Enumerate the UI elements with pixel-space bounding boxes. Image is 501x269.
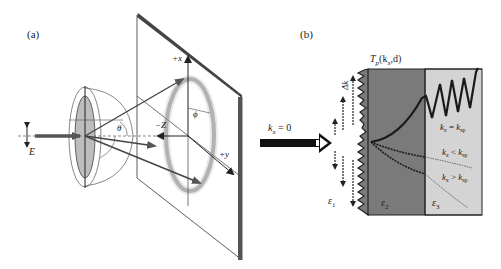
phi-label: ϕ <box>193 109 198 119</box>
incident-arrow <box>260 133 332 153</box>
panel-a: (a) +x +y −Z ϕ <box>18 13 242 260</box>
field-label: E <box>28 146 35 157</box>
z-axis-label: −Z <box>155 120 167 130</box>
screen-edge <box>238 97 242 260</box>
ray-down <box>85 136 200 183</box>
transmission-title: Tp(kx,d) <box>370 53 401 67</box>
panel-b: (b) Tp(kx,d) kx = 0 <box>260 28 482 215</box>
screen-plane <box>137 13 242 260</box>
theta-label: θ <box>117 123 122 133</box>
rough-surface <box>358 69 368 215</box>
x-axis-label: +x <box>172 53 182 63</box>
panel-b-label: (b) <box>300 28 313 41</box>
y-axis-label: +y <box>219 149 229 159</box>
panel-a-label: (a) <box>27 28 40 41</box>
delta-k-label: Δk <box>340 80 350 91</box>
eps1-label: ε1 <box>328 195 336 209</box>
incident-label: kx = 0 <box>268 122 291 136</box>
delta-k-arrows <box>335 77 353 205</box>
figure: (a) +x +y −Z ϕ <box>0 0 501 269</box>
